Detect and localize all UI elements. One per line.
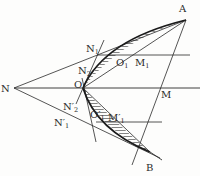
label-N2: N2	[78, 65, 91, 78]
tail-B	[150, 152, 162, 160]
label-N2-prime: N′2	[63, 101, 78, 114]
line-N-A	[14, 20, 186, 88]
diagram-canvas: N O A B M N1 N2 O1 M1 N′2 N′1 O′1 M′1	[0, 0, 200, 176]
label-B: B	[146, 162, 153, 173]
line-A-B	[132, 20, 186, 165]
construction-figure: N O A B M N1 N2 O1 M1 N′2 N′1 O′1 M′1	[0, 0, 200, 176]
label-N1: N1	[86, 43, 99, 56]
label-M1: M1	[135, 57, 149, 70]
label-A: A	[178, 3, 187, 14]
label-M: M	[161, 89, 171, 100]
label-N: N	[1, 83, 10, 94]
label-N1-prime: N′1	[54, 117, 69, 130]
label-O: O	[74, 79, 82, 90]
